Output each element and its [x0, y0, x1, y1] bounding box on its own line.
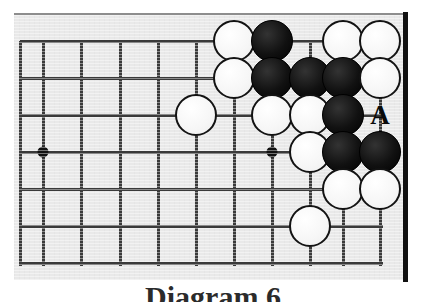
white-stone-r3c8[interactable]: [251, 94, 293, 136]
white-stone-r2c7[interactable]: [213, 57, 255, 99]
white-stone-r1c11[interactable]: [359, 20, 401, 62]
white-stone-r6c9[interactable]: [289, 205, 331, 247]
board-frame-right-edge: [403, 12, 408, 282]
white-stone-r1c10[interactable]: [322, 20, 364, 62]
board-frame-top-rule: [14, 13, 408, 15]
grid-line-horizontal-6: [20, 262, 383, 265]
white-stone-r2c11[interactable]: [359, 57, 401, 99]
white-stone-r5c10[interactable]: [322, 168, 364, 210]
figure-caption: Diagram 6: [0, 282, 426, 302]
hoshi-right-star-point: [267, 147, 278, 158]
white-stone-r1c7[interactable]: [213, 20, 255, 62]
black-stone-r2c8[interactable]: [251, 57, 293, 99]
go-diagram-figure: A Diagram 6: [0, 0, 426, 302]
black-stone-r2c10[interactable]: [322, 57, 364, 99]
point-marker-a: A: [370, 102, 390, 129]
hoshi-left-star-point: [38, 147, 49, 158]
black-stone-r1c8[interactable]: [251, 20, 293, 62]
black-stone-r3c10[interactable]: [322, 94, 364, 136]
white-stone-r3c6[interactable]: [175, 94, 217, 136]
white-stone-r5c11[interactable]: [359, 168, 401, 210]
black-stone-r4c11[interactable]: [359, 131, 401, 173]
black-stone-r4c10[interactable]: [322, 131, 364, 173]
